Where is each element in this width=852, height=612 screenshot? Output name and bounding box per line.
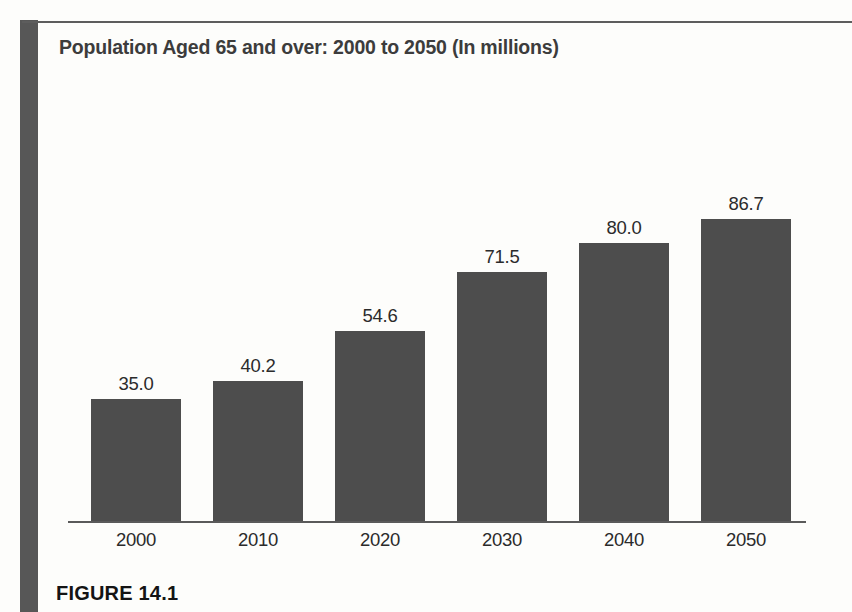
figure-caption: FIGURE 14.1 <box>56 582 178 605</box>
figure-page: Population Aged 65 and over: 2000 to 205… <box>0 0 852 612</box>
x-axis-tick-label: 2050 <box>701 529 791 551</box>
bar <box>335 331 425 521</box>
bar-group: 71.5 <box>457 272 547 521</box>
bar <box>91 399 181 521</box>
bar-value-label: 86.7 <box>701 193 791 215</box>
top-border-rule <box>22 21 852 23</box>
bar <box>213 381 303 521</box>
x-axis-tick-label: 2030 <box>457 529 547 551</box>
bar-group: 40.2 <box>213 381 303 521</box>
bar-group: 54.6 <box>335 331 425 521</box>
bar-value-label: 40.2 <box>213 355 303 377</box>
chart-title: Population Aged 65 and over: 2000 to 205… <box>59 36 559 59</box>
x-axis-tick-label: 2020 <box>335 529 425 551</box>
x-axis-line <box>68 521 806 523</box>
x-axis-tick-label: 2040 <box>579 529 669 551</box>
bar <box>457 272 547 521</box>
bar <box>579 243 669 521</box>
x-axis-tick-label: 2010 <box>213 529 303 551</box>
bar-value-label: 35.0 <box>91 373 181 395</box>
bar-group: 80.0 <box>579 243 669 521</box>
bar <box>701 219 791 521</box>
bar-value-label: 80.0 <box>579 217 669 239</box>
bar-value-label: 54.6 <box>335 305 425 327</box>
bar-value-label: 71.5 <box>457 246 547 268</box>
left-margin-rule <box>20 20 38 612</box>
bar-group: 35.0 <box>91 399 181 521</box>
bar-group: 86.7 <box>701 219 791 521</box>
bar-chart-plot-area: 35.0200040.2201054.6202071.5203080.02040… <box>68 100 806 523</box>
x-axis-tick-label: 2000 <box>91 529 181 551</box>
